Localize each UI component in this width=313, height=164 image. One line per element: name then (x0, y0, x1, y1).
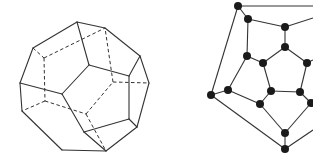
graph-node (244, 15, 252, 23)
graph-edge (300, 63, 307, 92)
visible-edge (140, 56, 149, 83)
graph-node (259, 59, 267, 67)
graph-node (303, 59, 311, 67)
visible-edge (62, 150, 106, 151)
graph-edge (247, 19, 248, 56)
graph-node (234, 2, 242, 10)
dodecahedron-wireframe (20, 22, 149, 151)
visible-edge (105, 28, 140, 56)
visible-edge (33, 22, 77, 48)
graph-node (281, 23, 289, 31)
visible-edge (62, 94, 84, 132)
graph-edge (228, 56, 247, 90)
dodecahedron-planar-graph (207, 2, 313, 153)
graph-edge (211, 95, 285, 149)
hidden-edge (44, 28, 105, 58)
graph-edge (263, 47, 285, 63)
visible-edge (77, 22, 105, 28)
visible-edge (20, 48, 33, 83)
graph-edge (248, 19, 285, 27)
visible-edge (84, 132, 106, 151)
graph-edge (263, 63, 271, 91)
visible-edge (77, 22, 89, 65)
hidden-edge (45, 101, 86, 114)
graph-node (281, 43, 289, 51)
graph-node (296, 88, 304, 96)
visible-edge (84, 119, 129, 132)
hidden-edge (22, 101, 45, 111)
visible-edge (89, 65, 129, 76)
graph-node (281, 145, 289, 153)
hidden-edge (113, 82, 149, 83)
visible-edge (129, 56, 140, 76)
graph-edge (260, 104, 285, 133)
graph-node (281, 129, 289, 137)
visible-edge (22, 111, 62, 150)
figure-canvas (0, 0, 313, 164)
graph-edge (271, 91, 300, 92)
graph-node (207, 91, 215, 99)
graph-edge (285, 103, 311, 133)
graph-node (267, 87, 275, 95)
hidden-edge (44, 58, 45, 101)
graph-edge (211, 6, 238, 95)
hidden-edge (33, 48, 44, 58)
visible-edge (62, 65, 89, 94)
graph-node (243, 52, 251, 60)
visible-edge (20, 83, 22, 111)
visible-edge (106, 127, 137, 151)
hidden-edge (105, 28, 113, 82)
graph-node (256, 100, 264, 108)
graph-node (224, 86, 232, 94)
graph-edge (285, 130, 313, 149)
visible-edge (129, 119, 137, 127)
graph-edge (285, 18, 313, 27)
graph-edge (285, 47, 307, 63)
visible-edge (137, 83, 149, 127)
graph-edge (228, 90, 260, 104)
hidden-edge (86, 82, 113, 114)
hidden-edge (86, 114, 106, 151)
visible-edge (20, 83, 62, 94)
